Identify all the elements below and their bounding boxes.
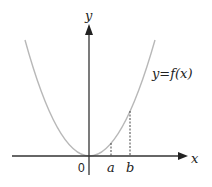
function-graph: y x 0 a b y=f(x) xyxy=(0,0,212,187)
parabola-curve xyxy=(25,40,155,156)
curve-label: y=f(x) xyxy=(151,66,193,81)
x-axis-arrow-icon xyxy=(178,152,188,160)
x-axis-label: x xyxy=(191,151,199,166)
y-axis-arrow-icon xyxy=(85,24,93,35)
marker-b-label: b xyxy=(126,160,134,175)
origin-label: 0 xyxy=(78,161,85,175)
marker-a-label: a xyxy=(107,160,115,175)
y-axis-label: y xyxy=(84,8,93,23)
